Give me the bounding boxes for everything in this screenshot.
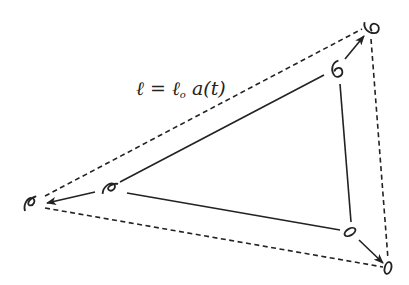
arrow-left xyxy=(47,192,95,203)
galaxy-inner-top-right xyxy=(331,60,343,77)
elliptical-galaxy-icon xyxy=(383,261,392,274)
equation-base: ℓ xyxy=(172,77,180,99)
outer-edge-top xyxy=(45,29,362,196)
arrow-top-right xyxy=(345,36,364,59)
inner-edge-bottom xyxy=(127,193,340,230)
spiral-galaxy-icon xyxy=(21,194,39,211)
equation-lhs: ℓ xyxy=(136,77,144,99)
galaxy-outer-bottom-right xyxy=(383,261,392,274)
outer-edge-bottom xyxy=(45,208,383,267)
scale-factor-equation: ℓ = ℓo a(t) xyxy=(136,77,226,100)
galaxy-inner-left xyxy=(100,181,119,194)
equation-equals: = xyxy=(144,77,172,99)
arrow-bottom-right xyxy=(359,240,383,263)
equation-rhs: a(t) xyxy=(186,77,226,99)
galaxy-outer-top-right xyxy=(362,20,380,35)
inner-edge-right xyxy=(340,84,351,222)
galaxy-inner-bottom-right xyxy=(343,226,357,238)
outer-triangle xyxy=(45,29,388,267)
spiral-galaxy-icon xyxy=(100,181,119,194)
spiral-galaxy-icon xyxy=(331,60,343,77)
spiral-galaxy-icon xyxy=(362,20,380,35)
galaxy-outer-left xyxy=(21,194,39,211)
outer-edge-right xyxy=(371,39,388,259)
expansion-diagram xyxy=(0,0,409,285)
elliptical-galaxy-icon xyxy=(343,226,357,238)
